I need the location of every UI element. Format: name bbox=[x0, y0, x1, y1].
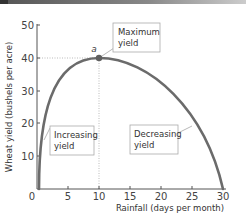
increasing-yield-line1: Increasing bbox=[54, 130, 98, 140]
x-tick-15: 15 bbox=[124, 191, 137, 202]
x-tick-5: 5 bbox=[65, 191, 71, 202]
point-a-label: a bbox=[91, 44, 97, 54]
y-axis-label: Wheat yield (bushels per acre) bbox=[4, 42, 14, 173]
max-yield-line1: Maximum bbox=[118, 27, 160, 37]
increasing-yield-line2: yield bbox=[54, 141, 74, 151]
max-yield-line2: yield bbox=[118, 38, 138, 48]
y-tick-10: 10 bbox=[21, 151, 34, 162]
y-tick-30: 30 bbox=[21, 86, 34, 97]
y-tick-20: 20 bbox=[21, 118, 34, 129]
y-tick-40: 40 bbox=[21, 53, 34, 64]
chart: 50 40 30 20 10 0 5 10 15 20 25 30 Rainfa… bbox=[0, 0, 246, 224]
decreasing-yield-line2: yield bbox=[134, 140, 154, 150]
yield-curve bbox=[39, 58, 223, 189]
x-tick-10: 10 bbox=[93, 191, 106, 202]
x-axis-label: Rainfall (days per month) bbox=[116, 203, 224, 213]
y-tick-50: 50 bbox=[21, 20, 34, 31]
decreasing-yield-line1: Decreasing bbox=[134, 129, 182, 139]
x-tick-20: 20 bbox=[155, 191, 168, 202]
inc-leader-line bbox=[44, 128, 50, 140]
x-tick-0: 0 bbox=[29, 191, 35, 202]
x-tick-25: 25 bbox=[186, 191, 199, 202]
max-leader-line bbox=[102, 48, 114, 56]
x-tick-30: 30 bbox=[217, 191, 230, 202]
max-point-a bbox=[96, 55, 102, 61]
